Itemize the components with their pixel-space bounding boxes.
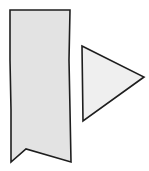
play-triangle-icon [82, 46, 144, 121]
diagram-canvas [0, 0, 149, 171]
bookmark-banner-icon [10, 10, 71, 162]
